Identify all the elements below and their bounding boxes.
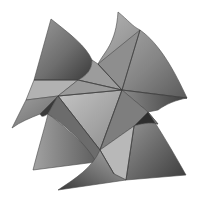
polyhedral-surface-figure	[0, 0, 220, 203]
surface-render	[0, 0, 220, 203]
face-top-left	[34, 19, 92, 80]
